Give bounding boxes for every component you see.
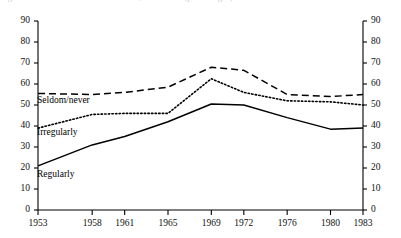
- y-axis-tick-left-60: 60: [2, 79, 30, 89]
- y-axis-tick-right-20: 20: [371, 163, 399, 173]
- y-axis-tick-left-50: 50: [2, 100, 30, 110]
- y-axis-tick-right-90: 90: [371, 16, 399, 26]
- x-axis-tick-1969: 1969: [193, 219, 229, 229]
- y-axis-tick-left-90: 90: [2, 16, 30, 26]
- y-axis-tick-left-30: 30: [2, 142, 30, 152]
- series-label-seldom-never: Seldom/never: [37, 95, 90, 105]
- y-axis-tick-left-80: 80: [2, 37, 30, 47]
- y-axis-tick-left-10: 10: [2, 184, 30, 194]
- x-axis-tick-1972: 1972: [226, 219, 262, 229]
- y-axis-tick-left-40: 40: [2, 121, 30, 131]
- y-axis-tick-left-70: 70: [2, 58, 30, 68]
- series-line-seldom-never: [38, 67, 363, 96]
- x-axis-tick-1953: 1953: [20, 219, 56, 229]
- y-axis-tick-right-70: 70: [371, 58, 399, 68]
- chart-container: Figure 1. Church attendance in Britain, …: [0, 0, 401, 238]
- axes-layer: [34, 21, 367, 215]
- y-axis-tick-left-0: 0: [2, 205, 30, 215]
- series-layer: [38, 67, 363, 166]
- y-axis-tick-right-60: 60: [371, 79, 399, 89]
- x-axis-tick-1965: 1965: [150, 219, 186, 229]
- series-label-regularly: Regularly: [37, 169, 74, 179]
- y-axis-tick-right-80: 80: [371, 37, 399, 47]
- x-axis-tick-1958: 1958: [74, 219, 110, 229]
- series-label-irregularly: Irregularly: [37, 127, 78, 137]
- y-axis-tick-right-0: 0: [371, 205, 399, 215]
- x-axis-tick-1983: 1983: [345, 219, 381, 229]
- y-axis-tick-right-40: 40: [371, 121, 399, 131]
- y-axis-tick-right-50: 50: [371, 100, 399, 110]
- x-axis-tick-1980: 1980: [313, 219, 349, 229]
- x-axis-tick-1961: 1961: [107, 219, 143, 229]
- series-line-regularly: [38, 104, 363, 166]
- line-chart-plot: [0, 0, 401, 238]
- y-axis-tick-right-30: 30: [371, 142, 399, 152]
- y-axis-tick-left-20: 20: [2, 163, 30, 173]
- y-axis-tick-right-10: 10: [371, 184, 399, 194]
- x-axis-tick-1976: 1976: [269, 219, 305, 229]
